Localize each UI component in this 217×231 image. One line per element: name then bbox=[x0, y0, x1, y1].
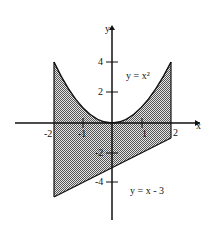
y-axis-label: y bbox=[105, 24, 110, 34]
parabola-label: y = x² bbox=[126, 71, 150, 81]
x-tick-label: -2 bbox=[44, 129, 52, 139]
x-tick-label: -1 bbox=[78, 129, 86, 139]
y-tick-label: -4 bbox=[95, 177, 103, 187]
y-tick-label: 2 bbox=[98, 87, 103, 97]
x-tick-label: 1 bbox=[142, 129, 147, 139]
y-tick-label: -2 bbox=[95, 148, 103, 158]
graph bbox=[0, 0, 217, 231]
x-axis-label: x bbox=[196, 121, 201, 131]
line-label: y = x - 3 bbox=[130, 186, 164, 196]
x-tick-label: 2 bbox=[173, 128, 178, 138]
y-tick-label: 4 bbox=[98, 57, 103, 67]
